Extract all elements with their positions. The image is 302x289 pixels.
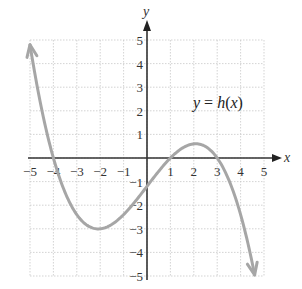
x-axis-label: x	[283, 150, 291, 165]
y-axis-arrow-icon	[143, 20, 151, 31]
function-graph: −5−4−3−2−11234554321−1−2−3−4−5 x y y = h…	[0, 0, 302, 289]
x-tick-label: 5	[261, 164, 268, 179]
y-axis-label: y	[141, 4, 150, 19]
y-tick-label: 3	[137, 80, 144, 95]
y-tick-label: 4	[137, 57, 144, 72]
x-tick-label: 3	[214, 164, 221, 179]
x-tick-label: −2	[93, 164, 107, 179]
y-tick-label: −5	[129, 269, 143, 284]
x-tick-label: 2	[191, 164, 198, 179]
y-tick-label: −4	[129, 245, 143, 260]
y-tick-label: 1	[137, 127, 144, 142]
x-tick-label: −3	[70, 164, 84, 179]
x-axis-arrow-icon	[272, 154, 282, 162]
x-tick-label: −5	[23, 164, 37, 179]
y-tick-label: −1	[129, 175, 143, 190]
axes	[28, 20, 282, 280]
y-tick-label: −3	[129, 222, 143, 237]
y-tick-label: 2	[137, 104, 144, 119]
x-tick-label: 1	[167, 164, 174, 179]
y-tick-label: 5	[137, 33, 144, 48]
x-tick-label: 4	[237, 164, 244, 179]
function-label: y = h(x)	[191, 94, 243, 112]
